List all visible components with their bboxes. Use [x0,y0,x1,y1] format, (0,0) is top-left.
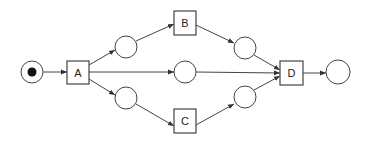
arc-B-to-p4 [196,25,234,43]
arc-p4-to-D [254,55,280,70]
arc-p2-to-D [196,72,280,73]
place-p_end [326,60,350,84]
transition-label: B [181,17,188,29]
arc-C-to-p5 [196,104,234,125]
arc-A-to-p3 [89,79,115,95]
arc-A-to-p1 [89,50,115,65]
transition-label: D [288,67,296,79]
transition-C: C [174,109,196,133]
diagram-canvas: ABCD [0,0,365,142]
arc-p1-to-B [136,24,174,41]
transition-label: C [181,115,189,127]
transition-B: B [174,11,196,35]
place-circle [115,36,137,58]
place-p1 [115,36,137,58]
petri-net-diagram: ABCD [0,0,365,142]
place-p5 [234,86,256,108]
place-circle [234,37,256,59]
place-p3 [115,87,137,109]
place-p2 [174,61,196,83]
transition-label: A [74,67,82,79]
place-circle [174,61,196,83]
place-circle [326,60,350,84]
arc-p3-to-C [136,104,174,126]
place-circle [115,87,137,109]
transition-D: D [280,61,303,85]
arc-p5-to-D [254,76,280,90]
place-p4 [234,37,256,59]
place-p_start [21,61,43,83]
place-circle [234,86,256,108]
token-icon [28,68,37,77]
transition-A: A [67,61,89,84]
